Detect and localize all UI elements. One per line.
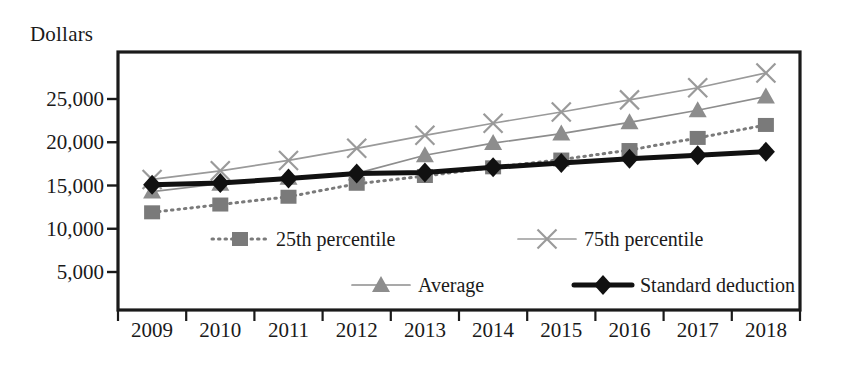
data-point-marker-diamond [757,142,775,162]
x-axis-tick-label: 2016 [609,318,651,343]
x-axis-tick-label: 2013 [404,318,446,343]
data-point-marker-diamond [689,145,707,165]
x-axis-tick-label-group: 2009201020112012201320142015201620172018 [0,318,862,362]
series-line [152,96,766,191]
data-point-marker-square [212,198,228,212]
series-line [152,73,766,179]
data-point-marker-square [758,118,774,132]
x-axis-tick-label: 2010 [199,318,241,343]
series-line [152,152,766,185]
x-axis-tick-label: 2012 [336,318,378,343]
x-axis-tick-label: 2014 [472,318,514,343]
data-point-marker-square [690,131,706,145]
x-axis-tick-label: 2015 [540,318,582,343]
x-axis-tick-label: 2011 [268,318,309,343]
data-point-marker-square [144,205,160,219]
chart-container: Dollars 5,00010,00015,00020,00025,000 20… [0,0,862,368]
x-axis-tick-label: 2017 [677,318,719,343]
data-point-marker-square [281,190,297,204]
x-axis-tick-label: 2018 [745,318,787,343]
x-axis-tick-label: 2009 [131,318,173,343]
data-point-marker-triangle [757,87,775,103]
data-point-marker-diamond [280,169,298,189]
plot-area [0,0,862,368]
